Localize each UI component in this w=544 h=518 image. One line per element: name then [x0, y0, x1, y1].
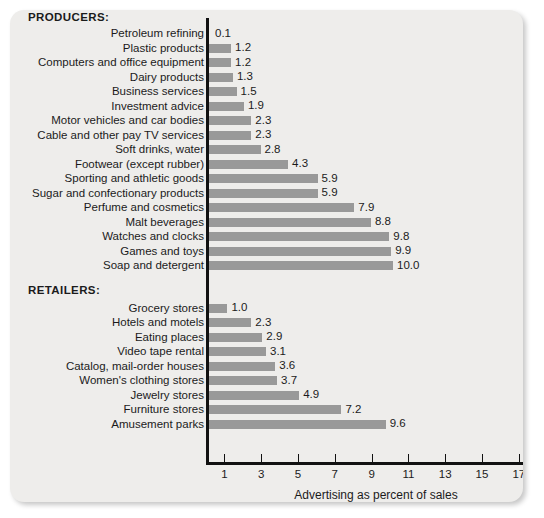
bar-value-label: 8.8 [375, 215, 391, 228]
bar [209, 160, 288, 169]
x-axis-tick [445, 454, 446, 462]
bar-row: Dairy products1.3 [10, 71, 523, 85]
bar-row-label: Hotels and motels [112, 316, 204, 329]
bar [209, 333, 262, 342]
bar-row-label: Furniture stores [123, 403, 204, 416]
bar-value-label: 3.7 [281, 374, 297, 387]
x-axis-tick-label: 15 [476, 468, 489, 480]
bar-row: Motor vehicles and car bodies2.3 [10, 114, 523, 128]
bar-row: Jewelry stores4.9 [10, 389, 523, 403]
bar-value-label: 9.9 [395, 244, 411, 257]
bar-row-label: Malt beverages [125, 216, 204, 229]
bar-value-label: 9.8 [393, 230, 409, 243]
x-axis-tick [408, 454, 409, 462]
bar [209, 174, 318, 183]
bar-value-label: 1.5 [241, 85, 257, 98]
bar-value-label: 2.3 [255, 316, 271, 329]
bar-row-label: Sugar and confectionary products [32, 187, 204, 200]
bar-row: Games and toys9.9 [10, 245, 523, 259]
bar-row: Furniture stores7.2 [10, 403, 523, 417]
x-axis-tick-label: 17 [512, 468, 523, 480]
bar-row-label: Cable and other pay TV services [37, 129, 204, 142]
bar-row-label: Women's clothing stores [79, 374, 204, 387]
bar-row-label: Plastic products [123, 42, 204, 55]
bar-row: Watches and clocks9.8 [10, 230, 523, 244]
bar-row: Amusement parks9.6 [10, 418, 523, 432]
bar [209, 102, 244, 111]
bar-row: Computers and office equipment1.2 [10, 56, 523, 70]
bar [209, 247, 391, 256]
bar-value-label: 0.1 [215, 27, 231, 40]
bar-value-label: 1.0 [231, 301, 247, 314]
bar-value-label: 1.2 [235, 41, 251, 54]
bar-value-label: 2.9 [266, 330, 282, 343]
bar [209, 391, 299, 400]
bar-row: Plastic products1.2 [10, 42, 523, 56]
bar-chart-plot: PRODUCERS: RETAILERS: Petroleum refining… [10, 10, 523, 502]
bar [209, 203, 354, 212]
bar [209, 420, 386, 429]
x-axis-tick [298, 454, 299, 462]
chart-card: PRODUCERS: RETAILERS: Petroleum refining… [10, 10, 523, 502]
bar-row-label: Computers and office equipment [38, 56, 204, 69]
bar-row-label: Eating places [135, 331, 204, 344]
bar-row: Soft drinks, water2.8 [10, 143, 523, 157]
x-axis-tick-label: 3 [258, 468, 264, 480]
bar-row: Sporting and athletic goods5.9 [10, 172, 523, 186]
bar-value-label: 4.9 [303, 388, 319, 401]
x-axis-tick [224, 454, 225, 462]
x-axis-tick [372, 454, 373, 462]
bar-value-label: 1.9 [248, 99, 264, 112]
bar-row-label: Catalog, mail-order houses [66, 360, 204, 373]
bar-row-label: Motor vehicles and car bodies [51, 114, 204, 127]
group-heading-producers: PRODUCERS: [28, 11, 109, 23]
bar-row: Grocery stores1.0 [10, 302, 523, 316]
bar [209, 189, 318, 198]
bar [209, 362, 275, 371]
x-axis-title: Advertising as percent of sales [206, 488, 523, 502]
bar [209, 116, 251, 125]
bar-row-label: Video tape rental [117, 345, 204, 358]
bar-value-label: 10.0 [397, 259, 419, 272]
bar-row-label: Investment advice [111, 100, 204, 113]
bar [209, 347, 266, 356]
bar-value-label: 1.2 [235, 56, 251, 69]
x-axis-tick-label: 1 [221, 468, 227, 480]
x-axis-tick [519, 454, 520, 462]
bar-row: Hotels and motels2.3 [10, 316, 523, 330]
bar-row: Video tape rental3.1 [10, 345, 523, 359]
bar [209, 318, 251, 327]
bar-row: Catalog, mail-order houses3.6 [10, 360, 523, 374]
bar-row: Malt beverages8.8 [10, 216, 523, 230]
bar-row: Eating places2.9 [10, 331, 523, 345]
bar [209, 145, 261, 154]
x-axis-tick [482, 454, 483, 462]
bar-row: Sugar and confectionary products5.9 [10, 187, 523, 201]
bar [209, 405, 341, 414]
bar [209, 58, 231, 67]
x-axis-tick-label: 7 [332, 468, 338, 480]
bar-value-label: 5.9 [322, 172, 338, 185]
x-axis-tick-label: 9 [368, 468, 374, 480]
bar-row-label: Petroleum refining [111, 27, 204, 40]
bar-value-label: 4.3 [292, 157, 308, 170]
bar-row: Perfume and cosmetics7.9 [10, 201, 523, 215]
bar-value-label: 3.6 [279, 359, 295, 372]
bar-row-label: Amusement parks [111, 418, 204, 431]
bar-row: Investment advice1.9 [10, 100, 523, 114]
bar [209, 73, 233, 82]
bar-row-label: Jewelry stores [131, 389, 205, 402]
bar-value-label: 3.1 [270, 345, 286, 358]
bar-value-label: 2.3 [255, 128, 271, 141]
bar-row-label: Sporting and athletic goods [65, 172, 204, 185]
x-axis-tick-label: 11 [402, 468, 414, 480]
x-axis-tick [335, 454, 336, 462]
bar-row-label: Dairy products [130, 71, 204, 84]
bar [209, 218, 371, 227]
x-axis-tick-label: 13 [439, 468, 452, 480]
bar [209, 261, 393, 270]
bar-row-label: Business services [112, 85, 204, 98]
bar-row-label: Footwear (except rubber) [75, 158, 204, 171]
bar [209, 376, 277, 385]
bar-value-label: 9.6 [390, 417, 406, 430]
